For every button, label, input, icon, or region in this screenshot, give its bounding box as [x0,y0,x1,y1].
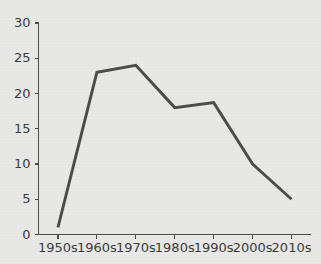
y-axis-tick-label: 0 [22,227,30,242]
y-axis-tick-label: 30 [14,15,31,30]
y-axis-tick-label: 10 [14,156,31,171]
y-axis-tick-label: 25 [14,50,31,65]
x-axis-tick-label: 1980s [155,240,195,255]
chart-canvas: 051015202530 1950s1960s1970s1980s1990s20… [0,0,321,264]
x-axis-tick-label: 1990s [194,240,234,255]
line-chart: 051015202530 1950s1960s1970s1980s1990s20… [0,0,321,264]
y-axis-tick-label: 20 [14,86,31,101]
x-axis-tick-label: 1950s [38,240,78,255]
chart-background [0,0,321,264]
y-axis-tick-label: 5 [22,191,30,206]
x-axis-tick-label: 1970s [116,240,156,255]
x-axis-tick-label: 2010s [272,240,312,255]
y-axis-tick-label: 15 [14,121,31,136]
x-axis-tick-label: 1960s [77,240,117,255]
x-axis-tick-label: 2000s [233,240,273,255]
